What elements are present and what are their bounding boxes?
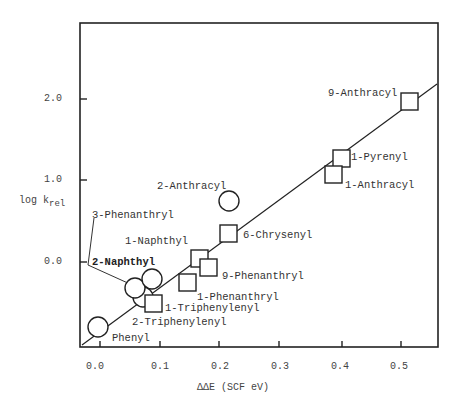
marker-1-phenanthryl <box>179 274 196 291</box>
y-tick-label: 0.0 <box>44 257 62 267</box>
marker-9-phenanthryl <box>200 259 217 276</box>
scatter-chart: 2.0 1.0 0.0 0.0 0.1 0.2 0.3 0.4 0.5 ΔΔE … <box>0 0 459 409</box>
y-axis-title-main: log k <box>19 195 49 206</box>
marker-2-naphthyl <box>142 269 162 289</box>
y-axis-ticks <box>80 99 87 262</box>
y-axis-title: log krel <box>19 196 65 209</box>
plot-area <box>0 0 459 409</box>
label-phenyl: Phenyl <box>112 333 150 344</box>
x-tick-label: 0.0 <box>86 362 104 372</box>
label-9-phenanthryl: 9-Phenanthryl <box>222 271 304 282</box>
marker-1-anthracyl <box>325 166 342 183</box>
leader-line-3-phenanthryl <box>88 218 130 284</box>
marker-9-anthracyl <box>401 93 418 110</box>
marker-6-chrysenyl <box>220 225 237 242</box>
label-6-chrysenyl: 6-Chrysenyl <box>243 230 312 241</box>
label-2-triphenylenyl: 2-Triphenylenyl <box>132 317 227 328</box>
label-1-triphenylenyl: 1-Triphenylenyl <box>165 303 260 314</box>
marker-1-triphenylenyl <box>145 295 162 312</box>
label-3-phenanthryl: 3-Phenanthryl <box>92 210 174 221</box>
x-axis-title: ΔΔE (SCF eV) <box>197 383 269 393</box>
y-tick-label: 2.0 <box>44 94 62 104</box>
label-1-pyrenyl: 1-Pyrenyl <box>351 152 408 163</box>
x-tick-label: 0.3 <box>271 362 289 372</box>
label-2-anthracyl: 2-Anthracyl <box>157 181 226 192</box>
x-tick-label: 0.1 <box>151 362 169 372</box>
label-1-anthracyl: 1-Anthracyl <box>345 180 414 191</box>
x-tick-label: 0.5 <box>390 362 408 372</box>
y-tick-label: 1.0 <box>44 175 62 185</box>
marker-phenyl <box>88 317 108 337</box>
label-1-naphthyl: 1-Naphthyl <box>125 236 188 247</box>
label-9-anthracyl: 9-Anthracyl <box>328 88 397 99</box>
x-tick-label: 0.4 <box>331 362 349 372</box>
marker-1-pyrenyl <box>333 150 350 167</box>
y-axis-title-sub: rel <box>49 199 65 209</box>
marker-2-anthracyl <box>219 191 239 211</box>
x-tick-label: 0.2 <box>211 362 229 372</box>
label-1-phenanthryl: 1-Phenanthryl <box>197 292 279 303</box>
label-2-naphthyl: 2-Naphthyl <box>92 257 155 268</box>
